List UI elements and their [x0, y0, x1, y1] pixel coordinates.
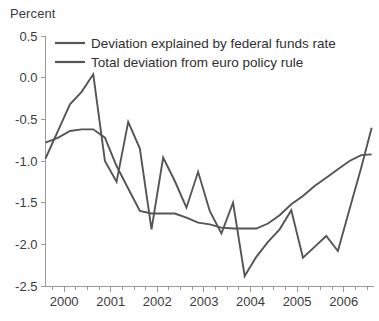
series-line-2 — [46, 74, 372, 276]
chart-legend: Deviation explained by federal funds rat… — [55, 36, 336, 70]
y-tick-label: -2.0 — [15, 237, 37, 252]
chart-figure: Percent 0.50.0-0.5-1.0-1.5-2.0-2.5 20002… — [0, 0, 379, 321]
y-tick-label: 0.0 — [19, 70, 37, 85]
x-tick-label: 2000 — [50, 294, 79, 309]
x-tick-label: 2006 — [329, 294, 358, 309]
legend-label-2: Total deviation from euro policy rule — [91, 55, 303, 70]
y-axis-ticks: 0.50.0-0.5-1.0-1.5-2.0-2.5 — [15, 29, 45, 294]
x-tick-label: 2004 — [236, 294, 265, 309]
y-tick-label: -2.5 — [15, 279, 37, 294]
y-tick-label: -1.5 — [15, 195, 37, 210]
axes — [46, 36, 375, 287]
chart-canvas: 0.50.0-0.5-1.0-1.5-2.0-2.5 2000200120022… — [0, 0, 379, 321]
data-series-group — [46, 74, 372, 276]
x-tick-label: 2002 — [143, 294, 172, 309]
cropped-caption-sliver — [4, 314, 376, 321]
y-tick-label: -0.5 — [15, 112, 37, 127]
legend-label-1: Deviation explained by federal funds rat… — [91, 36, 336, 51]
x-axis-ticks: 2000200120022003200420052006 — [50, 286, 367, 309]
x-tick-label: 2003 — [189, 294, 218, 309]
x-tick-label: 2005 — [283, 294, 312, 309]
series-line-1 — [46, 129, 372, 228]
x-tick-label: 2001 — [96, 294, 125, 309]
y-tick-label: 0.5 — [19, 29, 37, 44]
y-tick-label: -1.0 — [15, 154, 37, 169]
